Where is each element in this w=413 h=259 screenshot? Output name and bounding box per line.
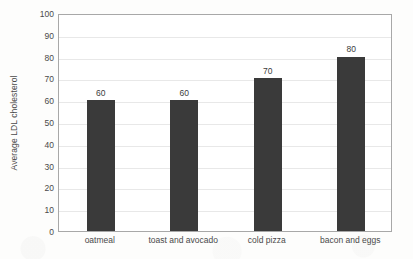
bar[interactable]: [337, 57, 365, 231]
x-tick-label: bacon and eggs: [320, 236, 381, 245]
y-tick-label: 50: [22, 119, 54, 128]
bar-group: 80: [310, 15, 394, 231]
bars-layer: 60607080: [59, 15, 391, 231]
bar-value-label: 60: [96, 89, 105, 98]
y-tick-label: 20: [22, 184, 54, 193]
bar-group: 60: [59, 15, 143, 231]
bar[interactable]: [170, 100, 198, 231]
y-axis-title-text: Average LDL cholesterol: [9, 75, 19, 170]
y-tick-label: 70: [22, 75, 54, 84]
plot-area: 60607080: [58, 14, 392, 232]
y-tick-label: 80: [22, 53, 54, 62]
x-axis-tick-labels: oatmealtoast and avocadocold pizzabacon …: [58, 236, 392, 254]
y-axis-tick-labels: 1009080706050403020100: [22, 14, 54, 232]
bar[interactable]: [87, 100, 115, 231]
bar-value-label: 70: [263, 67, 272, 76]
y-tick-label: 60: [22, 97, 54, 106]
bar-value-label: 80: [347, 45, 356, 54]
bar-value-label: 60: [180, 89, 189, 98]
bar-chart-figure: Average LDL cholesterol 1009080706050403…: [0, 0, 413, 259]
y-tick-label: 100: [22, 10, 54, 19]
y-tick-label: 30: [22, 162, 54, 171]
bar-group: 60: [143, 15, 227, 231]
x-tick-label: oatmeal: [85, 236, 115, 245]
y-tick-label: 0: [22, 228, 54, 237]
bar[interactable]: [254, 78, 282, 231]
y-tick-label: 90: [22, 32, 54, 41]
x-tick-label: toast and avocado: [149, 236, 218, 245]
y-axis-title: Average LDL cholesterol: [6, 0, 22, 245]
bar-group: 70: [226, 15, 310, 231]
x-tick-label: cold pizza: [248, 236, 286, 245]
y-tick-label: 10: [22, 206, 54, 215]
y-tick-label: 40: [22, 141, 54, 150]
